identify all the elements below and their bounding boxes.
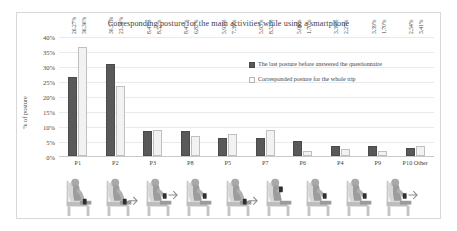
bar-series-2[interactable]: 2,27% [341, 149, 350, 156]
seated-posture-p9-icon [379, 171, 419, 217]
bar-value-label: 8,47% [146, 20, 152, 34]
seated-posture-p6-icon [299, 171, 339, 217]
bar-group: 3,39%2,27% [322, 37, 360, 156]
legend-item-series-2: Corresponded posture for the whole trip [249, 76, 439, 83]
seated-posture-p8-icon [179, 171, 219, 217]
bar-series-2[interactable]: 3,41% [416, 146, 425, 156]
bar-group: 8,47%8,52% [134, 37, 172, 156]
bar-groups: 26,27%36,36%30,51%23,30%8,47%8,52%8,47%6… [59, 37, 434, 156]
bar-group: 3,39%1,70% [359, 37, 397, 156]
bar-slot: 7,39% [228, 37, 237, 156]
plot-area: 26,27%36,36%30,51%23,30%8,47%8,52%8,47%6… [59, 37, 434, 157]
posture-pictogram-row [59, 171, 434, 217]
bar-value-label: 3,39% [333, 20, 339, 34]
bar-slot: 3,41% [416, 37, 425, 156]
bar-value-label: 7,39% [231, 20, 237, 34]
bar-value-label: 6,82% [193, 20, 199, 34]
bar-value-label: 5,93% [221, 20, 227, 34]
y-axis-tick-label: 5% [46, 139, 55, 146]
bar-value-label: 3,39% [371, 20, 377, 34]
bar-slot: 3,39% [331, 37, 340, 156]
seated-posture-p4-icon [339, 171, 379, 217]
bar-slot: 8,47% [181, 37, 190, 156]
seated-posture-none-icon [419, 171, 434, 217]
legend-label-series-2: Corresponded posture for the whole trip [258, 76, 356, 83]
x-axis-label: P2 [97, 159, 135, 171]
bar-slot: 5,08% [293, 37, 302, 156]
x-axis-label: P8 [172, 159, 210, 171]
legend-swatch-series-2 [249, 77, 255, 83]
bar-slot: 36,36% [78, 37, 87, 156]
y-axis-tick-label: 10% [43, 124, 55, 131]
bar-value-label: 8,52% [268, 20, 274, 34]
bar-value-label: 5,93% [258, 20, 264, 34]
bar-series-2[interactable]: 7,39% [228, 134, 237, 156]
bar-group: 5,93%7,39% [209, 37, 247, 156]
x-axis-label: P7 [247, 159, 285, 171]
bar-group: 5,08%1,70% [284, 37, 322, 156]
y-axis-tick-label: 35% [43, 49, 55, 56]
bar-slot: 8,52% [153, 37, 162, 156]
bar-value-label: 3,41% [418, 20, 424, 34]
bar-slot: 23,30% [116, 37, 125, 156]
bar-series-1[interactable]: 30,51% [106, 64, 115, 156]
chart-legend: The last posture before answered the que… [249, 61, 439, 91]
bar-series-1[interactable]: 8,47% [181, 131, 190, 156]
bar-series-1[interactable]: 8,47% [143, 131, 152, 156]
bar-slot: 30,51% [106, 37, 115, 156]
x-axis-label: P5 [209, 159, 247, 171]
bar-slot: 6,82% [191, 37, 200, 156]
bar-series-1[interactable]: 26,27% [68, 77, 77, 156]
bar-series-1[interactable]: 5,08% [293, 141, 302, 156]
bar-slot: 8,47% [143, 37, 152, 156]
bar-slot: 2,27% [341, 37, 350, 156]
bar-slot: 1,70% [378, 37, 387, 156]
y-axis-tick-label: 0% [46, 154, 55, 161]
bar-value-label: 1,70% [306, 20, 312, 34]
legend-label-series-1: The last posture before answered the que… [258, 61, 382, 68]
bar-value-label: 8,47% [183, 20, 189, 34]
y-axis-ticks: 40%35%30%25%20%15%10%5%0% [27, 37, 57, 157]
chart-container: Corresponding posture for the main activ… [16, 12, 441, 219]
bar-series-2[interactable]: 36,36% [78, 47, 87, 156]
x-axis-line [59, 156, 434, 157]
bar-value-label: 23,30% [118, 17, 124, 34]
bar-group: 5,93%8,52% [247, 37, 285, 156]
y-axis-tick-label: 15% [43, 109, 55, 116]
bar-group: 30,51%23,30% [97, 37, 135, 156]
y-axis-tick-label: 40% [43, 34, 55, 41]
bar-value-label: 5,08% [296, 20, 302, 34]
y-axis-tick-label: 30% [43, 64, 55, 71]
legend-swatch-series-1 [249, 62, 255, 68]
bar-series-2[interactable]: 6,82% [191, 136, 200, 156]
bar-group: 26,27%36,36% [59, 37, 97, 156]
bar-slot: 1,70% [303, 37, 312, 156]
bar-series-2[interactable]: 8,52% [153, 130, 162, 156]
legend-item-series-1: The last posture before answered the que… [249, 61, 439, 68]
x-axis-label: P6 [284, 159, 322, 171]
bar-value-label: 36,36% [81, 17, 87, 34]
bar-group: 2,54%3,41% [397, 37, 435, 156]
x-axis-label: P9 [359, 159, 397, 171]
x-axis-label: P1 [59, 159, 97, 171]
seated-posture-p3-icon [139, 171, 179, 217]
bar-slot: 26,27% [68, 37, 77, 156]
seated-posture-p5-icon [219, 171, 259, 217]
bar-series-2[interactable]: 23,30% [116, 86, 125, 156]
bar-series-1[interactable]: 3,39% [368, 146, 377, 156]
bar-value-label: 2,54% [408, 20, 414, 34]
bar-slot: 5,93% [256, 37, 265, 156]
bar-slot: 5,93% [218, 37, 227, 156]
bar-group: 8,47%6,82% [172, 37, 210, 156]
x-axis-labels: P1P2P3P8P5P7P6P4P9P10 Other [59, 159, 434, 171]
bar-series-1[interactable]: 3,39% [331, 146, 340, 156]
y-axis-tick-label: 25% [43, 79, 55, 86]
bar-series-1[interactable]: 2,54% [406, 148, 415, 156]
x-axis-label: P10 Other [397, 159, 435, 171]
seated-posture-p7-icon [259, 171, 299, 217]
y-axis-tick-label: 20% [43, 94, 55, 101]
bar-series-1[interactable]: 5,93% [256, 138, 265, 156]
bar-series-1[interactable]: 5,93% [218, 138, 227, 156]
bar-series-2[interactable]: 8,52% [266, 130, 275, 156]
x-axis-label: P3 [134, 159, 172, 171]
